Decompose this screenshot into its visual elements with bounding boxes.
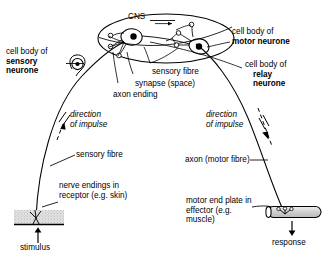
motor-end-plate-line1: motor end plate in (186, 196, 258, 206)
sensory-cell-body (70, 55, 85, 76)
leader-motor-cell-body (207, 42, 230, 47)
axon-ending-label: axon ending (113, 90, 158, 100)
synapse-label: synapse (space) (135, 79, 195, 89)
response-arrow-icon (289, 221, 296, 236)
direction-left-line2: of impulse (70, 120, 132, 130)
effector-muscle-cylinder (266, 207, 321, 218)
cell-body-relay-label: cell body of relay neurone (245, 60, 319, 89)
stimulus-arrow-icon (35, 227, 42, 243)
leader-nerve-endings (42, 202, 58, 207)
cell-body-relay-line1: cell body of (245, 60, 319, 70)
direction-right-line2: of impulse (206, 120, 268, 130)
cns-underline (150, 21, 175, 24)
response-label: response (272, 238, 306, 248)
motor-end-plate-line3: muscle) (186, 215, 258, 225)
cell-body-motor-label: cell body of motor neurone (232, 27, 310, 46)
axon-motor-fibre-label: axon (motor fibre) (185, 155, 250, 165)
nerve-endings-label: nerve endings in receptor (e.g. skin) (59, 181, 149, 200)
motor-end-plate-line2: effector (e.g. (186, 206, 258, 216)
leader-synapse (127, 52, 133, 74)
cns-label: CNS (128, 12, 145, 22)
leader-sensory-fibre-lower (50, 155, 75, 166)
direction-right-line1: direction (206, 110, 268, 120)
sensory-fibre-label: sensory fibre (76, 150, 123, 160)
direction-left-line1: direction (70, 110, 132, 120)
reflex-arc-diagram: CNS cell body of sensory neurone cell bo… (0, 0, 330, 257)
motor-end-plate-label: motor end plate in effector (e.g. muscle… (186, 196, 258, 225)
nerve-endings-line1: nerve endings in (59, 181, 149, 191)
impulse-arrow-left-icon (57, 122, 66, 140)
cell-body-sensory-line1: cell body of (6, 47, 68, 57)
cell-body-sensory-line3: neurone (6, 66, 68, 76)
leader-sensory-fibre-cns (144, 47, 150, 63)
sensory-fibre-cns-label: sensory fibre (152, 67, 199, 77)
direction-left-label: direction of impulse (70, 110, 132, 129)
cell-body-relay-line3: neurone (245, 79, 319, 89)
cell-body-motor-line1: cell body of (232, 27, 310, 37)
cell-body-motor-line2: motor neurone (232, 37, 310, 47)
cell-body-relay-line2: relay (245, 70, 319, 80)
cell-body-sensory-line2: sensory (6, 57, 68, 67)
stimulus-label: stimulus (20, 243, 50, 253)
nerve-endings-line2: receptor (e.g. skin) (59, 191, 149, 201)
cell-body-sensory-label: cell body of sensory neurone (6, 47, 68, 76)
direction-right-label: direction of impulse (206, 110, 268, 129)
receptor-skin-block (14, 210, 64, 225)
